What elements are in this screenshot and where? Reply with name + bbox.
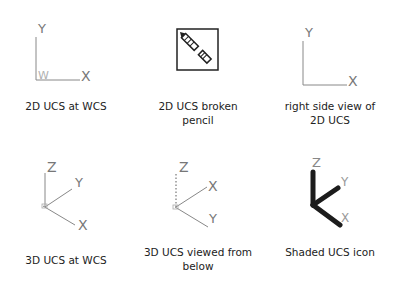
y-axis-label: Y xyxy=(74,175,83,190)
y-axis-label: Y xyxy=(37,21,46,36)
ucs-3d-below-icon: Z X Y xyxy=(132,145,264,255)
caption: 3D UCS viewed from below xyxy=(132,245,264,273)
icon-3d-ucs-wcs: Z Y X 3D UCS at WCS xyxy=(0,145,132,290)
icon-shaded-ucs: Z Y X Shaded UCS icon xyxy=(264,145,396,290)
y-axis-label: Y xyxy=(340,175,349,189)
icon-2d-ucs-wcs: Y W X 2D UCS at WCS xyxy=(0,0,132,145)
y-axis-label: Y xyxy=(304,25,313,40)
caption: right side view of 2D UCS xyxy=(264,99,396,127)
ucs-3d-wcs-icon: Z Y X xyxy=(0,145,132,255)
z-axis-label: Z xyxy=(47,159,57,175)
icon-2d-ucs-broken-pencil: 2D UCS broken pencil xyxy=(132,0,264,145)
caption-line1: 3D UCS viewed from xyxy=(132,245,264,259)
icon-3d-ucs-below: Z X Y 3D UCS viewed from below xyxy=(132,145,264,290)
x-axis-label: X xyxy=(341,211,349,225)
z-axis-label: Z xyxy=(312,155,321,170)
caption-line2: below xyxy=(132,259,264,273)
caption: 2D UCS at WCS xyxy=(0,99,132,113)
caption: 3D UCS at WCS xyxy=(0,253,132,267)
w-label: W xyxy=(38,69,49,82)
icon-right-side-view-2d: Y X right side view of 2D UCS xyxy=(264,0,396,145)
x-axis-label: X xyxy=(78,217,88,233)
caption: Shaded UCS icon xyxy=(264,245,396,259)
caption-line2: 2D UCS xyxy=(264,113,396,127)
caption: 2D UCS broken pencil xyxy=(132,99,264,127)
x-axis-label: X xyxy=(208,178,218,194)
x-axis-label: X xyxy=(348,73,358,89)
caption-line1: 2D UCS broken xyxy=(132,99,264,113)
caption-line2: pencil xyxy=(132,113,264,127)
x-axis-label: X xyxy=(81,68,91,84)
y-axis-label: Y xyxy=(208,211,217,226)
ucs-shaded-icon: Z Y X xyxy=(264,145,396,255)
z-axis-label: Z xyxy=(179,159,189,175)
caption-line1: right side view of xyxy=(264,99,396,113)
